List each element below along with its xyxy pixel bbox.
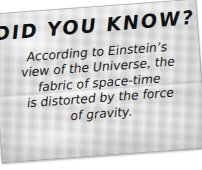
did-you-know-card: DID YOU KNOW? According to Einstein’s vi… xyxy=(0,0,202,163)
card-content: DID YOU KNOW? According to Einstein’s vi… xyxy=(0,0,202,163)
card-body-text: According to Einstein’s view of the Univ… xyxy=(7,39,192,129)
fact-card-stage: DID YOU KNOW? According to Einstein’s vi… xyxy=(0,0,202,170)
